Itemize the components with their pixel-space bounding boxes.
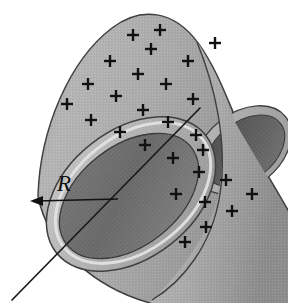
charge-plus-icon [187, 93, 199, 105]
charge-plus-icon [162, 116, 174, 128]
charge-plus-icon [179, 236, 191, 248]
charge-plus-icon [139, 139, 151, 151]
charge-plus-icon [209, 37, 221, 49]
charge-plus-icon [197, 144, 209, 156]
charge-plus-icon [220, 174, 232, 186]
charge-plus-icon [182, 55, 194, 67]
charge-plus-icon [82, 78, 94, 90]
charge-plus-icon [154, 24, 166, 36]
charge-plus-icon [145, 43, 157, 55]
charge-plus-icon [199, 196, 211, 208]
charge-plus-icon [137, 104, 149, 116]
charge-plus-icon [246, 188, 258, 200]
charged-cylinder-figure: R [0, 0, 288, 303]
charge-plus-icon [85, 114, 97, 126]
charge-plus-icon [127, 29, 139, 41]
charge-markers-layer [0, 0, 288, 303]
charge-plus-icon [193, 166, 205, 178]
charge-plus-icon [132, 68, 144, 80]
charge-plus-icon [190, 129, 202, 141]
charge-plus-icon [104, 55, 116, 67]
charge-plus-icon [226, 205, 238, 217]
charge-plus-icon [170, 188, 182, 200]
charge-plus-icon [167, 152, 179, 164]
charge-plus-icon [160, 78, 172, 90]
charge-markers [61, 24, 258, 248]
charge-plus-icon [110, 90, 122, 102]
charge-plus-icon [114, 126, 126, 138]
charge-plus-icon [61, 98, 73, 110]
charge-plus-icon [200, 221, 212, 233]
radius-label: R [57, 172, 71, 195]
